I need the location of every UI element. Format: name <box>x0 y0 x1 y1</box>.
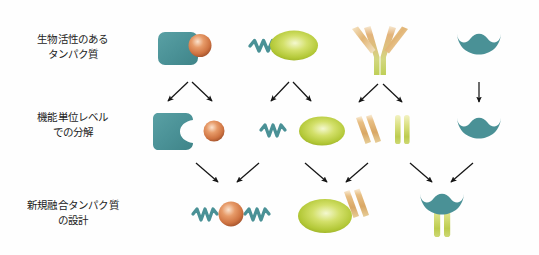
constant-stem-left <box>395 115 401 144</box>
fusion-squiggle-right <box>245 209 269 220</box>
protein-squiggle-green-ellipse <box>250 31 318 61</box>
protein-teal-block-with-sphere <box>158 32 212 65</box>
unit-teal-block-notched <box>153 113 193 150</box>
merge-arrow-3-right <box>451 163 473 182</box>
unit-antibody-constant-stems <box>395 115 410 144</box>
teal-crescent-shape-row2 <box>457 116 501 139</box>
constant-stem-right <box>404 115 410 144</box>
merge-arrow-1-right <box>237 163 259 182</box>
orange-sphere-shape <box>189 34 212 57</box>
fusion-squiggle-left <box>193 209 217 220</box>
teal-block-notched-shape <box>153 113 193 150</box>
merge-arrow-3-left <box>410 163 432 182</box>
fusion-green-ellipse <box>298 199 352 233</box>
split-arrow-3-right <box>383 84 402 102</box>
arrows-split-layer <box>168 82 479 102</box>
split-arrow-3-left <box>359 84 378 102</box>
unit-green-ellipse <box>299 117 345 146</box>
fusion-squiggle-sphere-squiggle <box>193 202 269 227</box>
diagram-canvas <box>0 0 539 255</box>
fusion-crescent-constant-stems <box>420 192 464 237</box>
green-ellipse-shape <box>270 31 318 61</box>
unit-teal-crescent <box>457 116 501 139</box>
unit-orange-sphere <box>204 121 225 142</box>
fusion-teal-crescent <box>420 192 464 215</box>
split-arrow-1-left <box>168 82 188 101</box>
unit-squiggle <box>261 125 285 136</box>
protein-engineering-diagram: 生物活性のある タンパク質 機能単位レベル での分解 新規融合タンパク質 の設計 <box>0 0 539 255</box>
merge-arrow-2-left <box>305 163 327 182</box>
fusion-ellipse-variable-arms <box>298 189 369 234</box>
teal-squiggle-shape-split <box>261 125 285 136</box>
split-arrow-1-right <box>192 82 212 101</box>
protein-teal-crescent <box>457 32 501 55</box>
teal-crescent-shape <box>457 32 501 55</box>
split-arrow-2-left <box>271 82 289 101</box>
arrows-merge-layer <box>196 163 473 182</box>
merge-arrow-2-right <box>346 163 368 182</box>
diagram-graphics <box>0 0 539 255</box>
protein-antibody-y <box>352 26 408 75</box>
unit-antibody-variable-arms <box>356 115 381 145</box>
split-arrow-2-right <box>293 82 311 101</box>
fusion-orange-sphere <box>219 202 244 227</box>
merge-arrow-1-left <box>196 163 218 182</box>
